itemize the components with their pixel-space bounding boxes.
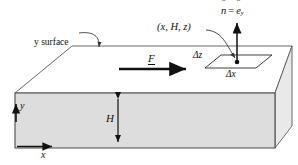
surface-point-label: (x, H, z): [157, 22, 191, 33]
e-hat-symbol: ̂e: [236, 5, 241, 16]
x-axis-label: x: [41, 150, 45, 160]
height-label: H: [106, 113, 114, 124]
y-surface-leader: [79, 33, 99, 47]
force-label: F: [148, 53, 155, 64]
force-underbar: F: [148, 52, 155, 65]
slab-diagram-svg: [0, 0, 298, 165]
equals-sign: =: [226, 5, 236, 16]
figure-root: y surface (x, H, z) ̂n=̂ey F Δz Δx H x y: [0, 0, 298, 165]
slab-front-face: [15, 93, 275, 148]
delta-x-label: Δx: [226, 70, 236, 80]
delta-z-label: Δz: [193, 51, 202, 61]
y-surface-label: y surface: [34, 38, 69, 48]
e-subscript-y: y: [241, 9, 244, 16]
y-axis-label: y: [20, 101, 24, 111]
surface-point-dot: [235, 60, 240, 65]
normal-vector-label: ̂n=̂ey: [221, 6, 244, 17]
n-hat-symbol: ̂n: [221, 5, 226, 16]
